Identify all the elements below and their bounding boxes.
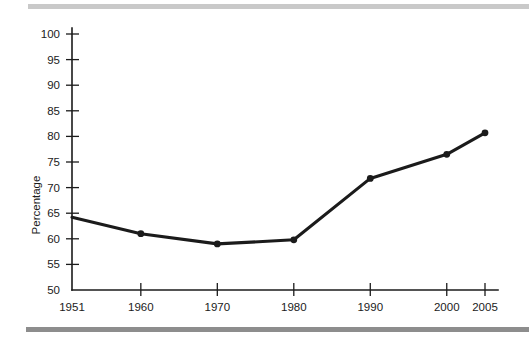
y-axis-ticks: 50556065707580859095100 [41,28,79,296]
chart-canvas: 50556065707580859095100 1951196019701980… [0,0,529,339]
x-tick-label: 1990 [357,301,383,313]
series-line-percentage [72,133,485,244]
data-point-marker [290,236,297,243]
bottom-divider-rule [26,327,529,332]
data-point-marker [367,175,374,182]
line-chart: 50556065707580859095100 1951196019701980… [0,0,529,339]
data-series [72,129,488,247]
y-tick-label: 90 [47,79,60,91]
y-tick-label: 95 [47,54,60,66]
x-axis-ticks: 1951196019701980199020002005 [59,283,498,313]
x-tick-label: 1980 [281,301,307,313]
data-point-marker [443,151,450,158]
x-tick-label: 1951 [59,301,85,313]
x-tick-label: 2005 [472,301,498,313]
data-point-marker [214,241,221,248]
y-tick-label: 65 [47,207,60,219]
y-tick-label: 70 [47,182,60,194]
chart-page: 50556065707580859095100 1951196019701980… [0,0,529,339]
x-tick-label: 1970 [205,301,231,313]
y-tick-label: 55 [47,258,60,270]
y-tick-label: 85 [47,105,60,117]
y-tick-label: 75 [47,156,60,168]
y-tick-label: 50 [47,284,60,296]
y-tick-label: 60 [47,233,60,245]
y-tick-label: 100 [41,28,60,40]
y-tick-label: 80 [47,130,60,142]
y-axis-title: Percentage [30,176,42,235]
data-point-marker [482,129,489,136]
x-tick-label: 1960 [128,301,154,313]
x-tick-label: 2000 [434,301,460,313]
series-markers [137,129,488,247]
data-point-marker [137,230,144,237]
